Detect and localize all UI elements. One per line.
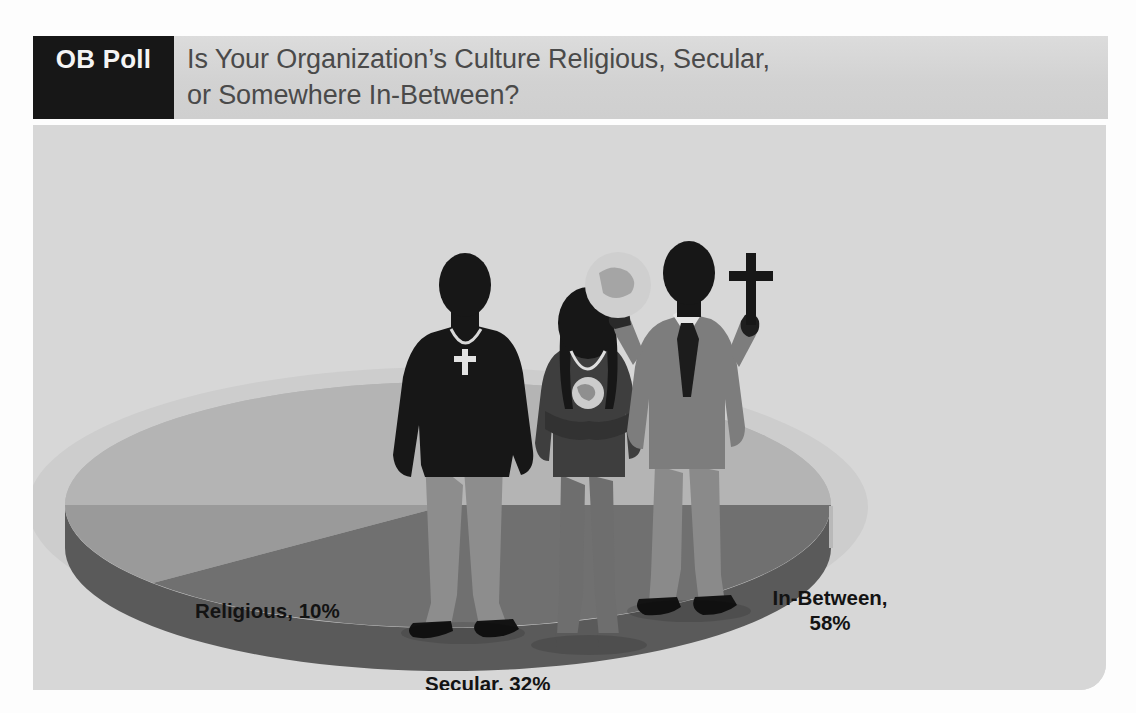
pie-chart-illustration xyxy=(33,125,1106,690)
figure1-head xyxy=(439,253,491,317)
cross-icon-vertical xyxy=(746,253,756,325)
pie-label-secular: Secular, 32% xyxy=(425,671,550,690)
pie-slice-gap xyxy=(829,506,833,548)
page-title-line-1: Is Your Organization’s Culture Religious… xyxy=(187,44,770,74)
header-bar: OB Poll Is Your Organization’s Culture R… xyxy=(33,36,1108,119)
ob-poll-badge: OB Poll xyxy=(33,36,174,119)
figure3-head xyxy=(663,241,715,305)
pie-label-religious: Religious, 10% xyxy=(195,598,340,623)
page-title: Is Your Organization’s Culture Religious… xyxy=(174,36,1108,119)
figure1-jacket xyxy=(393,323,533,477)
illustration-panel: Religious, 10% Secular, 32% In-Between, … xyxy=(33,125,1106,690)
pie-label-in-between: In-Between, 58% xyxy=(740,585,920,635)
ob-poll-badge-label: OB Poll xyxy=(56,45,151,74)
cross-icon-horizontal xyxy=(729,271,773,281)
poll-graphic: OB Poll Is Your Organization’s Culture R… xyxy=(0,0,1136,713)
figure1-cross-horizontal xyxy=(454,356,476,362)
page-title-line-2: or Somewhere In-Between? xyxy=(187,77,1108,113)
